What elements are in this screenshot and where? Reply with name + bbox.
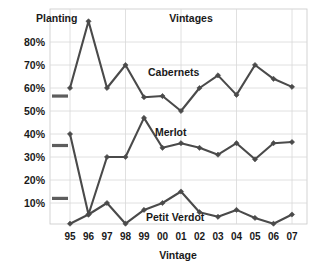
y-tick-label-50: 50% (24, 105, 46, 117)
series-label-petit-verdot: Petit Verdot (146, 211, 205, 223)
y-tick-label-30: 30% (24, 151, 46, 163)
x-tick-label-06: 06 (268, 231, 280, 242)
x-tick-label-96: 96 (83, 231, 95, 242)
x-tick-label-05: 05 (249, 231, 261, 242)
x-tick-label-00: 00 (157, 231, 169, 242)
x-tick-label-03: 03 (212, 231, 224, 242)
chart-title: Vintages (169, 12, 213, 24)
chart-container: 10%20%30%40%50%60%70%80% 959697989900010… (0, 0, 318, 267)
x-tick-label-04: 04 (231, 231, 243, 242)
series-label-merlot: Merlot (155, 126, 187, 138)
x-tick-label-95: 95 (64, 231, 76, 242)
x-axis-title: Vintage (159, 249, 197, 261)
y-tick-label-10: 10% (24, 197, 46, 209)
x-tick-label-07: 07 (286, 231, 298, 242)
y-tick-label-40: 40% (24, 128, 46, 140)
series-label-cabernets: Cabernets (148, 66, 200, 78)
y-tick-label-20: 20% (24, 174, 46, 186)
y-tick-label-60: 60% (24, 82, 46, 94)
x-tick-label-01: 01 (175, 231, 187, 242)
planting-group-label: Planting (36, 12, 77, 24)
x-tick-label-97: 97 (101, 231, 113, 242)
x-tick-label-99: 99 (138, 231, 150, 242)
x-tick-label-02: 02 (194, 231, 206, 242)
y-tick-label-70: 70% (24, 59, 46, 71)
vintages-line-chart: 10%20%30%40%50%60%70%80% 959697989900010… (0, 0, 318, 267)
y-tick-label-80: 80% (24, 36, 46, 48)
x-tick-label-98: 98 (120, 231, 132, 242)
